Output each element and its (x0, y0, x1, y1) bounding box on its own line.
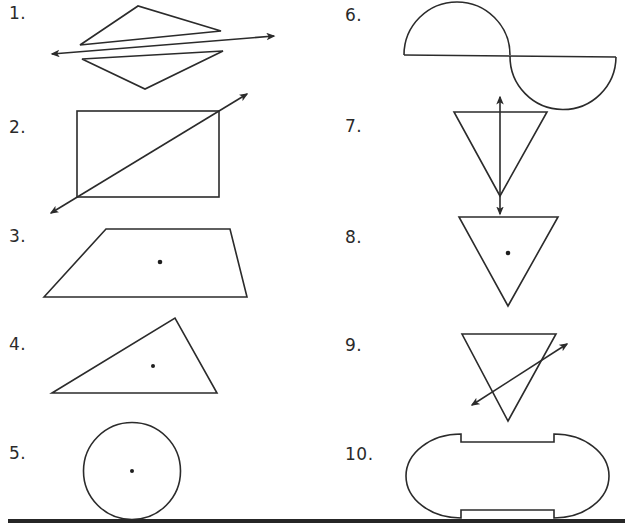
figure-7 (454, 97, 547, 214)
figure-2 (51, 94, 247, 213)
figure-9 (462, 334, 567, 421)
center-point (506, 251, 511, 256)
lower-triangle (82, 51, 223, 89)
notched-rounded-shape (406, 434, 609, 518)
line-with-arrows (51, 94, 247, 213)
lower-semicircle (510, 56, 616, 110)
center-point (158, 260, 163, 265)
trapezoid (44, 229, 247, 297)
figure-3 (44, 229, 247, 297)
figure-5 (84, 423, 181, 520)
upper-triangle (80, 6, 221, 45)
triangle (462, 334, 556, 421)
center-point (151, 364, 155, 368)
triangle (459, 217, 558, 306)
figure-8 (459, 217, 558, 306)
triangle (52, 318, 217, 393)
figure-6 (404, 2, 616, 110)
line-with-arrows (472, 344, 567, 405)
figure-10 (406, 434, 609, 518)
figures-canvas (0, 0, 625, 530)
symmetry-worksheet: 1. 2. 3. 4. 5. 6. 7. 8. 9. 10. (0, 0, 625, 530)
bottom-rule (8, 519, 625, 523)
center-point (130, 469, 134, 473)
figure-4 (52, 318, 217, 393)
upper-semicircle (404, 2, 510, 55)
figure-1 (52, 6, 274, 89)
